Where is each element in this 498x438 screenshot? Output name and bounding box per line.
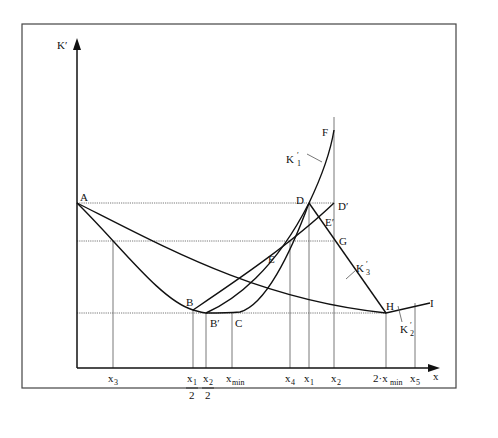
point-label-F: F (322, 126, 328, 138)
point-label-A: A (80, 191, 88, 203)
curve-k2-A-H-I (77, 203, 430, 313)
tick-label-x1: x 1 (304, 372, 314, 387)
tick-label-x3: x 3 (108, 372, 118, 387)
svg-text:1: 1 (297, 159, 301, 168)
svg-text:K: K (286, 153, 294, 165)
line-k3-D-H (309, 203, 386, 313)
point-label-B-prime: B′ (210, 317, 220, 329)
x-axis-label: x (433, 370, 439, 382)
svg-text:1: 1 (310, 378, 314, 387)
svg-text:2: 2 (410, 329, 414, 338)
svg-text:3: 3 (366, 268, 370, 277)
leader-k1 (307, 154, 322, 162)
svg-text:5: 5 (416, 378, 420, 387)
tick-label-x2: x 2 (331, 372, 341, 387)
tick-label-xmin: x min (226, 372, 244, 387)
svg-text:2: 2 (209, 378, 213, 387)
curve-C-D (206, 203, 309, 313)
point-label-C: C (235, 317, 242, 329)
svg-text:3: 3 (114, 378, 118, 387)
diagram-canvas: K′ x A B B′ C D D′ E E′ F G H I K ′ 1 K … (0, 0, 498, 438)
svg-text:K: K (356, 262, 364, 274)
svg-text:K: K (400, 323, 408, 335)
figure-frame (22, 24, 456, 388)
tick-label-x4: x 4 (285, 372, 295, 387)
tick-label-x1-half: x 1 2 (186, 372, 198, 401)
tick-label-two-xmin: 2·x min (373, 372, 402, 387)
svg-text:2: 2 (337, 378, 341, 387)
point-label-I: I (430, 297, 434, 309)
point-label-E-prime: E′ (325, 216, 334, 228)
tick-label-x5: x 5 (410, 372, 420, 387)
leader-k3 (346, 270, 356, 279)
point-label-B: B (186, 296, 193, 308)
curve-label-k2: K ′ 2 (400, 321, 414, 338)
point-label-H: H (386, 300, 394, 312)
point-label-D: D (296, 194, 304, 206)
tick-label-x2-half: x 2 2 (202, 372, 214, 401)
curve-label-k3: K ′ 3 (356, 260, 370, 277)
svg-text:1: 1 (193, 378, 197, 387)
curve-label-k1: K ′ 1 (286, 151, 301, 168)
y-axis-arrow-icon (73, 38, 81, 50)
svg-text:2·x: 2·x (373, 372, 388, 384)
point-label-G: G (339, 235, 347, 247)
point-label-D-prime: D′ (338, 200, 348, 212)
svg-text:min: min (232, 378, 244, 387)
y-axis-label: K′ (57, 39, 67, 51)
svg-text:2: 2 (205, 389, 211, 401)
point-label-E: E (268, 253, 275, 265)
svg-text:min: min (390, 378, 402, 387)
svg-text:4: 4 (291, 378, 295, 387)
leader-k2 (398, 306, 402, 322)
svg-text:2: 2 (189, 389, 195, 401)
